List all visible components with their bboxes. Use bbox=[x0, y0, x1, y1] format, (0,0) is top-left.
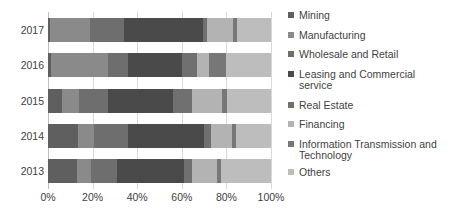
bar-segment bbox=[51, 53, 108, 77]
bar-segment bbox=[207, 18, 233, 42]
legend-item[interactable]: Leasing and Commercial service bbox=[288, 69, 448, 92]
legend-swatch-icon bbox=[288, 169, 294, 175]
x-axis-tick-label: 100% bbox=[258, 192, 285, 203]
bar-segment bbox=[62, 89, 79, 113]
bar-segment bbox=[192, 159, 218, 183]
bar-row bbox=[48, 124, 271, 148]
legend-swatch-icon bbox=[288, 71, 294, 77]
bar-segment bbox=[50, 18, 90, 42]
y-axis-tick-label: 2013 bbox=[0, 166, 44, 177]
bar-segment bbox=[108, 53, 128, 77]
bar-segment bbox=[128, 53, 183, 77]
legend-swatch-icon bbox=[288, 121, 294, 127]
bar-row bbox=[48, 89, 271, 113]
bar-segment bbox=[221, 159, 271, 183]
bar-segment bbox=[184, 159, 192, 183]
bar-segment bbox=[128, 124, 204, 148]
legend-item[interactable]: Wholesale and Retail bbox=[288, 49, 448, 61]
y-axis-tick-label: 2017 bbox=[0, 25, 44, 36]
legend-item[interactable]: Others bbox=[288, 167, 448, 179]
bar-segment bbox=[78, 124, 94, 148]
x-axis-tick-label: 60% bbox=[171, 192, 192, 203]
bar-segment bbox=[48, 89, 62, 113]
y-axis-tick-label: 2016 bbox=[0, 60, 44, 71]
bar-segment bbox=[226, 53, 271, 77]
legend-swatch-icon bbox=[288, 12, 294, 18]
legend-item[interactable]: Manufacturing bbox=[288, 30, 448, 42]
legend-swatch-icon bbox=[288, 141, 294, 147]
legend-swatch-icon bbox=[288, 51, 294, 57]
legend-swatch-icon bbox=[288, 102, 294, 108]
legend-item[interactable]: Real Estate bbox=[288, 100, 448, 112]
stacked-bar-chart: 20172016201520142013 0%20%40%60%80%100% … bbox=[0, 0, 451, 223]
bar-segment bbox=[236, 124, 271, 148]
bar-segment bbox=[77, 159, 91, 183]
bar-segment bbox=[204, 124, 211, 148]
legend-item[interactable]: Information Transmission and Technology bbox=[288, 139, 448, 162]
legend-item-label: Mining bbox=[299, 10, 330, 22]
bar-segment bbox=[91, 159, 117, 183]
legend-item-label: Leasing and Commercial service bbox=[299, 69, 448, 92]
legend-item-label: Financing bbox=[299, 119, 345, 131]
y-axis-tick-label: 2015 bbox=[0, 96, 44, 107]
bar-segment bbox=[124, 18, 202, 42]
legend-item-label: Wholesale and Retail bbox=[299, 49, 398, 61]
gridline-100 bbox=[271, 12, 272, 189]
bar-segment bbox=[108, 89, 173, 113]
bar-segment bbox=[94, 124, 129, 148]
bar-row bbox=[48, 53, 271, 77]
x-axis: 0%20%40%60%80%100% bbox=[48, 192, 271, 210]
bar-segment bbox=[209, 53, 226, 77]
bar-segment bbox=[79, 89, 108, 113]
y-axis-tick-label: 2014 bbox=[0, 131, 44, 142]
y-axis: 20172016201520142013 bbox=[0, 12, 44, 189]
legend-item-label: Real Estate bbox=[299, 100, 353, 112]
bar-segment bbox=[173, 89, 192, 113]
bar-segment bbox=[48, 159, 77, 183]
bar-row bbox=[48, 18, 271, 42]
bar-segment bbox=[227, 89, 270, 113]
bar-segment bbox=[197, 53, 209, 77]
legend-item-label: Information Transmission and Technology bbox=[299, 139, 448, 162]
bar-segment bbox=[90, 18, 125, 42]
legend-item-label: Manufacturing bbox=[299, 30, 366, 42]
chart-legend: MiningManufacturingWholesale and RetailL… bbox=[288, 10, 448, 183]
bar-segment bbox=[48, 124, 78, 148]
x-axis-tick-label: 40% bbox=[127, 192, 148, 203]
bar-segment bbox=[182, 53, 196, 77]
bar-segment bbox=[117, 159, 184, 183]
legend-item[interactable]: Financing bbox=[288, 119, 448, 131]
bar-segment bbox=[192, 89, 222, 113]
legend-swatch-icon bbox=[288, 32, 294, 38]
x-axis-tick-label: 80% bbox=[216, 192, 237, 203]
bar-row bbox=[48, 159, 271, 183]
legend-item[interactable]: Mining bbox=[288, 10, 448, 22]
bar-segment bbox=[237, 18, 271, 42]
plot-area bbox=[48, 12, 271, 189]
bar-segment bbox=[211, 124, 232, 148]
legend-item-label: Others bbox=[299, 167, 331, 179]
x-axis-tick-label: 0% bbox=[40, 192, 55, 203]
x-axis-tick-label: 20% bbox=[82, 192, 103, 203]
